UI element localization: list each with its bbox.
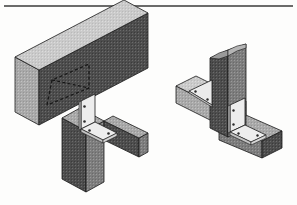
technical-drawing-canvas: [0, 0, 297, 205]
drawing-sheet: [0, 0, 297, 205]
figure-right: [176, 44, 282, 158]
figure-left: [15, 0, 148, 192]
